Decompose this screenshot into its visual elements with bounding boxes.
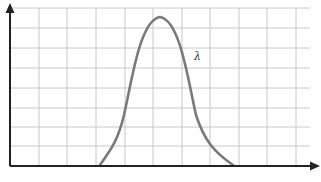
x-axis	[10, 162, 320, 171]
curve-label: λ	[194, 50, 201, 63]
grid	[10, 8, 310, 166]
y-axis	[6, 3, 15, 166]
x-axis-arrow-icon	[310, 162, 320, 171]
bell-curve-diagram	[0, 0, 321, 182]
bell-curve	[100, 17, 233, 165]
